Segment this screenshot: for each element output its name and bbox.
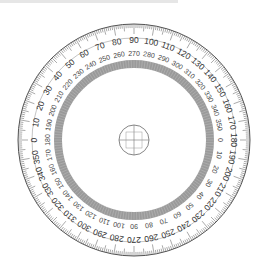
outer-scale-label: 90 [129, 35, 139, 45]
outer-scale-label: 10 [30, 117, 42, 128]
inner-scale-label: 270 [128, 50, 140, 57]
inner-scale-label: 90 [130, 223, 138, 230]
protractor: 0102030405060708090100110120130140150160… [0, 0, 269, 276]
inner-scale-label: 10 [215, 151, 223, 160]
inner-scale-label: 0 [217, 138, 224, 142]
outer-scale-label: 80 [111, 36, 122, 48]
outer-scale-label: 0 [29, 137, 39, 142]
inner-scale-label: 180 [44, 134, 51, 146]
inner-scale-label: 80 [145, 221, 154, 229]
outer-scale-label: 270 [127, 235, 141, 245]
center-crosshair-icon [119, 125, 149, 155]
outer-scale-label: 180 [229, 133, 239, 147]
